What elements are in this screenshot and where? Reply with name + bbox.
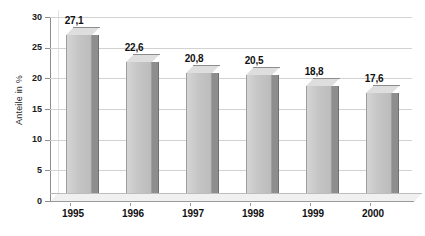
- bar-top-face: [306, 79, 339, 86]
- floor-back-edge: [58, 193, 422, 194]
- bar-top-edge: [193, 65, 220, 66]
- bar-front-face: [66, 35, 92, 201]
- gridline: [50, 109, 412, 110]
- x-axis-label-1998: 1998: [230, 208, 276, 219]
- bar-front-face: [126, 62, 152, 201]
- x-axis-label-1995: 1995: [50, 208, 96, 219]
- x-tick-mark: [70, 203, 71, 206]
- bar-top-edge: [253, 67, 280, 68]
- gridline: [50, 170, 412, 171]
- value-label-1996: 22,6: [112, 42, 156, 53]
- bar-side-face: [152, 62, 159, 201]
- gridline: [50, 48, 412, 49]
- floor-left-bevel: [50, 193, 59, 203]
- y-tick-label: 5: [20, 166, 42, 175]
- bar-side-face: [272, 75, 279, 201]
- value-label-1998: 20,5: [232, 55, 276, 66]
- y-tick-label: 15: [20, 105, 42, 114]
- bar-side-face: [212, 73, 219, 201]
- bar-top-face: [186, 66, 219, 73]
- y-tick-label: 10: [20, 135, 42, 144]
- x-axis-label-2000: 2000: [350, 208, 396, 219]
- bar-top-edge: [373, 85, 400, 86]
- gridline: [50, 17, 412, 18]
- y-tick-label: 20: [20, 74, 42, 83]
- bar-top-face: [366, 86, 399, 93]
- value-label-1995: 27,1: [52, 15, 96, 26]
- floor-front-edge: [50, 201, 414, 202]
- bar-top-edge: [73, 27, 100, 28]
- x-tick-mark: [370, 203, 371, 206]
- bar-top-face: [246, 68, 279, 75]
- value-label-2000: 17,6: [352, 73, 396, 84]
- x-axis-label-1997: 1997: [170, 208, 216, 219]
- chart-floor: [50, 193, 422, 206]
- bar-front-face: [366, 93, 392, 201]
- value-label-1997: 20,8: [172, 53, 216, 64]
- bar-top-edge: [133, 54, 160, 55]
- x-axis-label-1999: 1999: [290, 208, 336, 219]
- bar-top-face: [66, 28, 99, 35]
- x-tick-mark: [190, 203, 191, 206]
- y-axis-tick-labels: 30 25 20 15 10 5 0: [20, 0, 42, 236]
- gridline: [50, 140, 412, 141]
- y-tick-label: 25: [20, 43, 42, 52]
- x-tick-mark: [310, 203, 311, 206]
- x-axis-label-1996: 1996: [110, 208, 156, 219]
- bar-top-face: [126, 55, 159, 62]
- y-tick-label: 0: [20, 197, 42, 206]
- floor-surface: [50, 193, 422, 206]
- bar-side-face: [392, 93, 399, 201]
- bar-front-face: [246, 75, 272, 201]
- bar-chart: Anteile in % 30 25 20 15 10 5 0: [0, 0, 425, 236]
- value-label-1999: 18,8: [292, 66, 336, 77]
- bar-top-edge: [313, 78, 340, 79]
- plot-area: [50, 17, 412, 201]
- bar-side-face: [92, 35, 99, 201]
- x-tick-mark: [130, 203, 131, 206]
- x-tick-mark: [250, 203, 251, 206]
- bar-front-face: [306, 86, 332, 201]
- bar-side-face: [332, 86, 339, 201]
- y-tick-label: 30: [20, 13, 42, 22]
- bar-front-face: [186, 73, 212, 201]
